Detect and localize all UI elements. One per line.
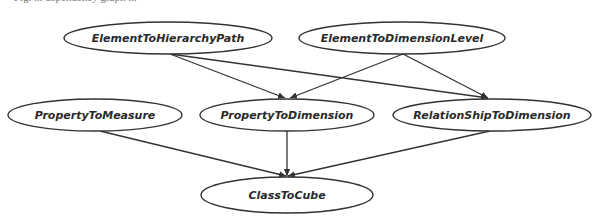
node-relation-ship-to-dimension: RelationShipToDimension [393, 99, 591, 131]
node-class-to-cube: ClassToCube [201, 177, 373, 213]
edge-p2m-to-c2c [100, 131, 286, 176]
node-label: ElementToDimensionLevel [321, 32, 484, 45]
edge-r2d-to-c2c [288, 131, 490, 176]
node-property-to-measure: PropertyToMeasure [8, 99, 182, 131]
node-label: ElementToHierarchyPath [92, 32, 245, 45]
edge-e2dl-to-r2d [403, 54, 488, 98]
edge-e2hp-to-p2d [170, 54, 285, 98]
node-label: RelationShipToDimension [413, 109, 571, 122]
node-label: ClassToCube [248, 189, 326, 202]
nodes-group: ElementToHierarchyPathElementToDimension… [8, 22, 591, 213]
node-property-to-dimension: PropertyToDimension [200, 99, 374, 131]
edge-e2dl-to-p2d [290, 54, 403, 98]
node-label: PropertyToDimension [221, 109, 354, 122]
edge-e2hp-to-r2d [170, 54, 488, 98]
node-element-to-dimension-level: ElementToDimensionLevel [299, 22, 505, 54]
dependency-diagram: ElementToHierarchyPathElementToDimension… [0, 0, 599, 218]
node-element-to-hierarchy-path: ElementToHierarchyPath [64, 22, 272, 54]
node-label: PropertyToMeasure [35, 109, 156, 122]
